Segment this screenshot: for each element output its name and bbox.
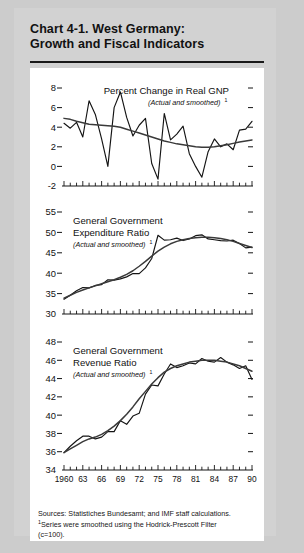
panel-gnp-svg: 86420-2Percent Change in Real GNP(Actual… [30, 74, 264, 204]
page-background: Chart 4-1. West Germany: Growth and Fisc… [0, 0, 304, 553]
panel-title-line2: Expenditure Ratio [73, 227, 149, 238]
panel-gnp: 86420-2Percent Change in Real GNP(Actual… [30, 74, 264, 204]
y-tick-label: 40 [46, 410, 56, 421]
footnote-text-line1: Series were smoothed using the Hodrick-P… [41, 521, 217, 530]
panel-title-line1: General Government [73, 215, 163, 226]
y-tick-label: 44 [46, 373, 56, 384]
x-tick-label: 72 [135, 474, 145, 484]
panel-subtitle-superscript: 1 [150, 239, 153, 245]
y-tick-label: 2 [51, 141, 56, 152]
x-tick-label: 63 [78, 474, 88, 484]
x-tick-label: 87 [229, 474, 239, 484]
title-divider [30, 61, 264, 63]
x-tick-label: 66 [97, 474, 107, 484]
chart-title-line1: Chart 4-1. West Germany: [30, 22, 266, 37]
panel-revenue: 4846444240383634General GovernmentRevenu… [30, 330, 264, 502]
y-tick-label: 50 [46, 227, 56, 238]
notes-block: Sources: Statistiches Bundesamt; and IMF… [30, 505, 264, 541]
sources-note: Sources: Statistiches Bundesamt; and IMF… [38, 509, 256, 518]
panel-subtitle: (Actual and smoothed) [148, 98, 220, 107]
footnote-note: 1Series were smoothed using the Hodrick-… [38, 518, 256, 530]
x-tick-label: 81 [191, 474, 201, 484]
y-tick-label: 30 [46, 308, 56, 319]
chart-card: Chart 4-1. West Germany: Growth and Fisc… [14, 8, 276, 536]
x-tick-label: 84 [210, 474, 220, 484]
panel-subtitle: (Actual and smoothed) [73, 240, 145, 249]
panel-subtitle-superscript: 1 [225, 97, 228, 103]
panel-revenue-svg: 4846444240383634General GovernmentRevenu… [30, 330, 264, 502]
chart-title-line2: Growth and Fiscal Indicators [30, 37, 266, 52]
panel-subtitle-superscript: 1 [150, 369, 153, 375]
plot-area-container: 86420-2Percent Change in Real GNP(Actual… [30, 68, 264, 505]
x-tick-label: 75 [153, 474, 163, 484]
y-tick-label: 45 [46, 247, 56, 258]
series-line-smoothed [64, 118, 252, 147]
page-title: Chart 4-1. West Germany: Growth and Fisc… [30, 22, 266, 52]
y-tick-label: 55 [46, 206, 56, 217]
y-tick-label: 42 [46, 391, 56, 402]
y-tick-label: 6 [51, 102, 56, 113]
panel-expenditure-svg: 555045403530General GovernmentExpenditur… [30, 200, 264, 332]
y-tick-label: 35 [46, 288, 56, 299]
y-tick-label: 4 [51, 122, 56, 133]
x-tick-label: 1960 [55, 474, 74, 484]
x-tick-label: 90 [247, 474, 257, 484]
y-tick-label: 40 [46, 268, 56, 279]
y-tick-label: 36 [46, 446, 56, 457]
panel-title-line2: Revenue Ratio [73, 357, 136, 368]
y-tick-label: 46 [46, 355, 56, 366]
footnote-text-line2: (c=100). [38, 530, 256, 539]
x-tick-label: 78 [172, 474, 182, 484]
panel-title-line1: General Government [73, 345, 163, 356]
y-tick-label: -2 [48, 180, 56, 191]
panel-subtitle: (Actual and smoothed) [73, 370, 145, 379]
panel-expenditure: 555045403530General GovernmentExpenditur… [30, 200, 264, 332]
y-tick-label: 0 [51, 161, 56, 172]
x-tick-label: 69 [116, 474, 126, 484]
y-tick-label: 8 [51, 82, 56, 93]
y-tick-label: 38 [46, 428, 56, 439]
panel-title: Percent Change in Real GNP [104, 85, 229, 96]
y-tick-label: 48 [46, 336, 56, 347]
